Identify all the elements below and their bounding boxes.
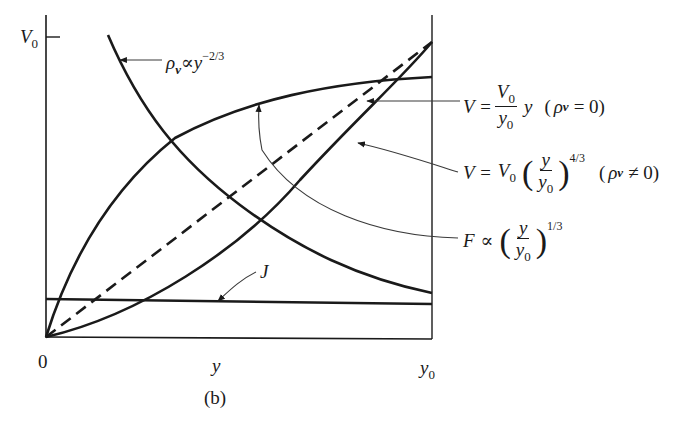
curve-current-density bbox=[46, 299, 432, 304]
sc-exponent: 4/3 bbox=[570, 152, 585, 164]
rho-variable: y bbox=[194, 52, 202, 73]
sc-fraction: y y0 bbox=[536, 150, 555, 195]
plot-frame bbox=[46, 15, 432, 339]
lin-den-symbol: y bbox=[498, 107, 506, 128]
x-axis-mid-label: y bbox=[212, 356, 220, 375]
sc-coef: V0 bbox=[498, 161, 516, 184]
curve-space-charge-potential bbox=[46, 42, 432, 337]
sc-cond-rel: ≠ 0) bbox=[628, 163, 659, 182]
lin-cond-sub: v bbox=[563, 100, 569, 113]
arrow-space-charge-potential bbox=[358, 143, 458, 172]
curve-linear-potential bbox=[46, 42, 432, 337]
f-lhs: F bbox=[463, 231, 475, 250]
label-space-charge-potential: V = V0 ( y y0 ) 4/3 (ρv≠ 0) bbox=[463, 150, 659, 195]
f-denominator: y0 bbox=[514, 239, 533, 263]
curve-electric-field bbox=[46, 77, 432, 337]
lin-variable: y bbox=[524, 97, 532, 116]
lin-denominator: y0 bbox=[496, 107, 515, 131]
sc-den-symbol: y bbox=[538, 171, 546, 192]
sc-denominator: y0 bbox=[536, 171, 555, 195]
origin-label: 0 bbox=[38, 352, 48, 371]
f-den-sub: 0 bbox=[524, 249, 531, 264]
sc-cond-sub: v bbox=[617, 166, 623, 179]
label-electric-field: F ∝ ( y y0 ) 1/3 bbox=[463, 218, 562, 263]
proportional-symbol: ∝ bbox=[181, 52, 194, 73]
f-proportional: ∝ bbox=[481, 231, 494, 250]
lin-den-sub: 0 bbox=[507, 117, 514, 132]
x-axis bbox=[46, 337, 432, 339]
figure-caption: (b) bbox=[204, 388, 226, 407]
lin-cond-open: ( bbox=[544, 97, 550, 116]
f-exponent: 1/3 bbox=[547, 220, 562, 232]
sc-den-sub: 0 bbox=[547, 181, 554, 196]
f-numerator: y bbox=[517, 218, 529, 239]
lin-lhs: V = bbox=[463, 97, 492, 116]
lin-fraction: V0 y0 bbox=[495, 82, 517, 131]
lin-cond-rho: ρ bbox=[554, 97, 563, 116]
v0-tick-label: V0 bbox=[20, 27, 38, 50]
sc-coef-symbol: V bbox=[498, 160, 510, 181]
x-axis-end-label: y0 bbox=[420, 358, 435, 381]
v0-subscript: 0 bbox=[32, 36, 39, 51]
label-current-density: J bbox=[260, 262, 268, 281]
sc-coef-sub: 0 bbox=[509, 170, 516, 185]
sc-paren-right: ) bbox=[558, 156, 569, 190]
y0-subscript: 0 bbox=[428, 367, 435, 382]
curve-space-charge-density bbox=[108, 35, 432, 293]
f-fraction: y y0 bbox=[514, 218, 533, 263]
lin-numerator: V0 bbox=[495, 82, 517, 107]
f-paren-right: ) bbox=[536, 224, 547, 258]
sc-lhs: V = bbox=[463, 163, 492, 182]
lin-num-symbol: V bbox=[497, 81, 509, 102]
arrow-electric-field bbox=[259, 105, 458, 238]
label-linear-potential: V = V0 y0 y (ρv= 0) bbox=[463, 82, 605, 131]
rho-exponent: −2/3 bbox=[202, 49, 224, 63]
space-charge-diagram bbox=[0, 0, 692, 426]
f-paren-left: ( bbox=[499, 224, 510, 258]
f-den-symbol: y bbox=[516, 239, 524, 260]
label-space-charge-density: ρv∝y−2/3 bbox=[166, 50, 224, 76]
arrow-current-density bbox=[218, 272, 256, 301]
sc-cond-rho: ρ bbox=[608, 163, 617, 182]
v0-symbol: V bbox=[20, 26, 32, 47]
lin-cond-rel: = 0) bbox=[574, 97, 605, 116]
rho-symbol: ρ bbox=[166, 52, 175, 73]
lin-num-sub: 0 bbox=[508, 91, 515, 106]
sc-cond-open: ( bbox=[599, 163, 605, 182]
sc-numerator: y bbox=[540, 150, 552, 171]
sc-paren-left: ( bbox=[522, 156, 533, 190]
